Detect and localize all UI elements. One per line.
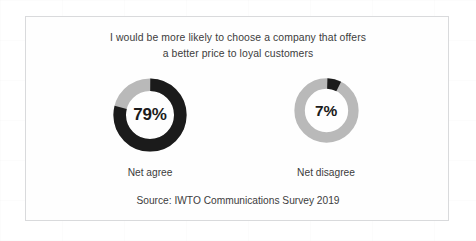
donut-net-agree-label: Net agree: [128, 167, 173, 178]
chart-title-line-1: I would be more likely to choose a compa…: [26, 30, 450, 46]
chart-title-line-2: a better price to loyal customers: [26, 46, 450, 62]
donut-chart-row: 79% Net agree 7% Net disagree: [26, 75, 450, 178]
donut-net-disagree: 7% Net disagree: [238, 75, 414, 178]
donut-net-agree-ring: 79%: [110, 75, 190, 155]
donut-net-disagree-label: Net disagree: [297, 167, 355, 178]
donut-net-agree-value: 79%: [110, 75, 190, 155]
figure-card: I would be more likely to choose a compa…: [25, 16, 449, 221]
donut-net-disagree-value: 7%: [291, 75, 362, 146]
source-note: Source: IWTO Communications Survey 2019: [26, 195, 450, 206]
donut-net-agree: 79% Net agree: [62, 75, 238, 178]
chart-title: I would be more likely to choose a compa…: [26, 30, 450, 61]
donut-net-disagree-ring: 7%: [291, 75, 362, 146]
